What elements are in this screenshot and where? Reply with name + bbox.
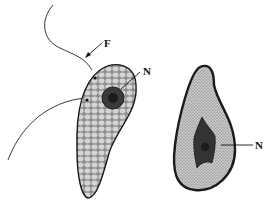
label-n-text: N	[143, 65, 151, 77]
cyst-nucleus-core	[201, 143, 209, 151]
label-flagellum: F	[85, 37, 111, 58]
granule-dot	[85, 98, 88, 101]
nucleus-core	[108, 93, 118, 103]
label-n-text: N	[255, 139, 263, 151]
flagellate-cell	[8, 5, 136, 198]
diagram-canvas: F N N	[0, 0, 266, 204]
flagellum-upper	[45, 5, 92, 70]
flagellum-lower	[8, 98, 86, 160]
cell-body	[77, 65, 136, 198]
label-f-text: F	[104, 37, 111, 49]
granule-dot	[93, 76, 96, 79]
cyst-form	[174, 66, 235, 190]
